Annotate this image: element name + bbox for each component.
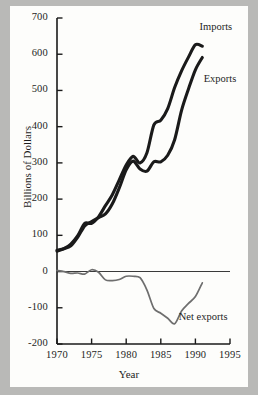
series-line-exports bbox=[57, 57, 202, 250]
y-tick-label: 700 bbox=[10, 11, 48, 22]
series-annotation-net-exports: Net exports bbox=[179, 311, 228, 322]
y-tick-label: 400 bbox=[10, 120, 48, 131]
y-tick-label: -100 bbox=[10, 301, 48, 312]
y-tick-label: 200 bbox=[10, 192, 48, 203]
series-line-imports bbox=[57, 44, 202, 251]
y-tick-label: 300 bbox=[10, 156, 48, 167]
x-axis-title: Year bbox=[10, 368, 248, 380]
y-tick-label: 500 bbox=[10, 83, 48, 94]
x-tick-label: 1995 bbox=[208, 349, 252, 360]
series-annotation-exports: Exports bbox=[204, 73, 237, 84]
y-tick-label: 600 bbox=[10, 47, 48, 58]
series-annotation-imports: Imports bbox=[200, 21, 233, 32]
y-tick-label: 100 bbox=[10, 228, 48, 239]
chart-figure: Billions of Dollars Year -200-1000100200… bbox=[10, 6, 248, 387]
y-tick-label: -200 bbox=[10, 337, 48, 348]
y-tick-label: 0 bbox=[10, 265, 48, 276]
